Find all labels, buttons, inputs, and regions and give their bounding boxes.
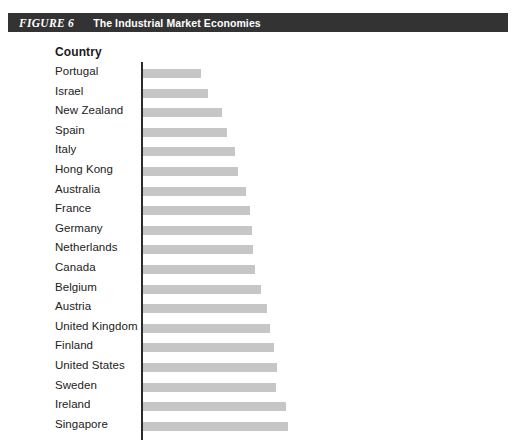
chart-row-label: Finland	[55, 339, 93, 351]
chart-bar	[143, 128, 227, 137]
figure-title: The Industrial Market Economies	[93, 17, 261, 29]
chart-bar-track	[143, 147, 235, 156]
chart-bar	[143, 226, 252, 235]
chart-row: Singapore	[0, 417, 518, 437]
chart-row: Finland	[0, 338, 518, 358]
chart-bar	[143, 402, 286, 411]
chart-bar-track	[143, 226, 252, 235]
chart-bar	[143, 167, 238, 176]
chart-bar-track	[143, 383, 276, 392]
chart-bar-track	[143, 69, 201, 78]
chart-row-label: Israel	[55, 85, 83, 97]
chart-row: Canada	[0, 260, 518, 280]
chart-bar-track	[143, 304, 267, 313]
chart-row: Netherlands	[0, 240, 518, 260]
chart-bar-track	[143, 343, 274, 352]
chart-bar	[143, 324, 270, 333]
chart-row: Hong Kong	[0, 162, 518, 182]
chart-row-label: Ireland	[55, 398, 91, 410]
chart-row: Portugal	[0, 64, 518, 84]
chart-row-label: Australia	[55, 183, 100, 195]
chart-row-label: Netherlands	[55, 241, 118, 253]
chart-row-label: France	[55, 202, 91, 214]
chart-bar-track	[143, 128, 227, 137]
chart-row-label: New Zealand	[55, 104, 123, 116]
chart-row-label: Italy	[55, 143, 76, 155]
chart-bar-track	[143, 402, 286, 411]
chart-row: Ireland	[0, 397, 518, 417]
chart-bar-track	[143, 167, 238, 176]
chart-row: United States	[0, 358, 518, 378]
chart-row-label: Portugal	[55, 65, 98, 77]
country-column-header: Country	[55, 45, 102, 59]
chart-row-label: Belgium	[55, 281, 97, 293]
chart-row: Spain	[0, 123, 518, 143]
chart-row: Israel	[0, 84, 518, 104]
chart-bar-track	[143, 245, 253, 254]
figure-header-band: FIGURE 6 The Industrial Market Economies	[8, 13, 508, 32]
chart-bar	[143, 206, 250, 215]
chart-row: United Kingdom	[0, 319, 518, 339]
chart-bar	[143, 422, 288, 431]
chart-row: Austria	[0, 299, 518, 319]
chart-row: Italy	[0, 142, 518, 162]
chart-row-label: Singapore	[55, 418, 108, 430]
chart-bar-track	[143, 422, 288, 431]
bar-chart: Country PortugalIsraelNew ZealandSpainIt…	[0, 38, 518, 416]
chart-bar-track	[143, 285, 261, 294]
chart-bar	[143, 383, 276, 392]
chart-bar-track	[143, 265, 255, 274]
chart-bar-track	[143, 206, 250, 215]
chart-bar-track	[143, 108, 222, 117]
chart-row: Germany	[0, 221, 518, 241]
chart-bar	[143, 363, 277, 372]
chart-bar-track	[143, 363, 277, 372]
figure-number-label: FIGURE 6	[19, 17, 74, 29]
chart-bar	[143, 265, 255, 274]
chart-row-label: Spain	[55, 124, 85, 136]
chart-row-label: Austria	[55, 300, 91, 312]
chart-bar	[143, 187, 246, 196]
chart-bar-track	[143, 324, 270, 333]
chart-bar	[143, 69, 201, 78]
chart-row-label: Canada	[55, 261, 96, 273]
chart-bar	[143, 108, 222, 117]
chart-bar	[143, 89, 208, 98]
chart-rows-container: PortugalIsraelNew ZealandSpainItalyHong …	[0, 64, 518, 436]
chart-row-label: United States	[55, 359, 125, 371]
chart-bar	[143, 304, 267, 313]
chart-bar-track	[143, 89, 208, 98]
chart-row-label: United Kingdom	[55, 320, 138, 332]
chart-bar-track	[143, 187, 246, 196]
chart-row-label: Sweden	[55, 379, 97, 391]
chart-bar	[143, 245, 253, 254]
chart-bar	[143, 147, 235, 156]
chart-row: New Zealand	[0, 103, 518, 123]
chart-bar	[143, 343, 274, 352]
chart-row-label: Germany	[55, 222, 103, 234]
chart-row: Sweden	[0, 378, 518, 398]
chart-row: France	[0, 201, 518, 221]
chart-row: Australia	[0, 182, 518, 202]
chart-row-label: Hong Kong	[55, 163, 113, 175]
chart-row: Belgium	[0, 280, 518, 300]
chart-bar	[143, 285, 261, 294]
